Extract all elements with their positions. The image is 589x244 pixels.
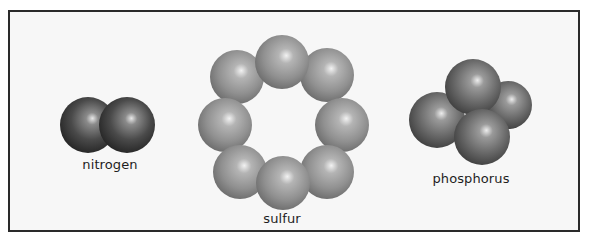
phosphorus-atom	[445, 59, 501, 115]
nitrogen-label: nitrogen	[82, 157, 137, 172]
sulfur-label: sulfur	[263, 211, 300, 226]
phosphorus-label: phosphorus	[432, 171, 509, 186]
sulfur-atom	[198, 98, 252, 152]
nitrogen-atom	[99, 97, 155, 153]
sulfur-atom	[256, 156, 310, 210]
sulfur-molecule	[198, 35, 369, 210]
molecule-scene	[0, 0, 589, 244]
phosphorus-molecule	[409, 59, 532, 165]
phosphorus-atom	[454, 109, 510, 165]
nitrogen-molecule	[60, 97, 155, 153]
sulfur-atom	[315, 98, 369, 152]
sulfur-atom	[255, 35, 309, 89]
